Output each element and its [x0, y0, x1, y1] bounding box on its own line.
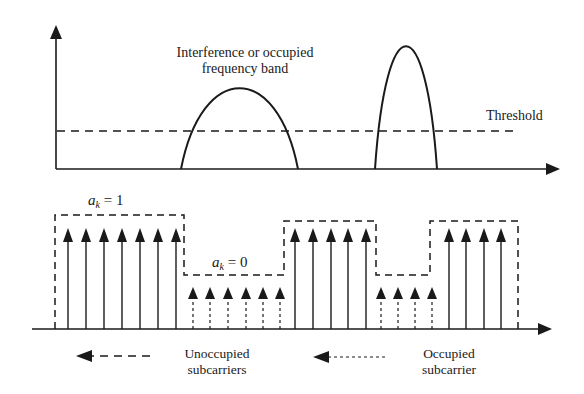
arrow-head-icon [427, 287, 437, 299]
spectrum-sensing-diagram: Interference or occupied frequency band … [0, 0, 584, 394]
arrow-head-icon [479, 228, 489, 242]
unoccupied-subcarrier-arrow [326, 228, 336, 329]
legend-unoccupied-line1: Unoccupied [172, 346, 262, 362]
arrow-head-icon [343, 228, 353, 242]
occupied-subcarrier-arrow [258, 287, 268, 329]
subcarrier-panel [32, 215, 552, 335]
occupied-subcarrier-arrow [205, 287, 215, 329]
arrow-head-icon [444, 228, 454, 242]
unoccupied-subcarrier-arrow [308, 228, 318, 329]
unoccupied-subcarrier-arrow [153, 228, 163, 329]
ak-equals-1-label: ak = 1 [88, 192, 123, 211]
occupied-subcarrier-arrow [376, 287, 386, 329]
occupied-subcarrier-arrow [223, 287, 233, 329]
subcarrier-axis-arrow-icon [538, 323, 552, 335]
arrow-head-icon [258, 287, 268, 299]
unoccupied-subcarrier-arrow [361, 228, 371, 329]
arrow-head-icon [188, 287, 198, 299]
arrow-head-icon [275, 287, 285, 299]
legend-occupied-line2: subcarrier [406, 362, 492, 378]
legend-occupied-arrow-icon [313, 351, 329, 363]
arrow-head-icon [117, 228, 127, 242]
arrow-head-icon [461, 228, 471, 242]
unoccupied-subcarrier-arrow [117, 228, 127, 329]
arrow-head-icon [326, 228, 336, 242]
unoccupied-subcarrier-arrow [444, 228, 454, 329]
interference-annotation: Interference or occupied frequency band [150, 45, 340, 77]
arrow-head-icon [308, 228, 318, 242]
arrow-head-icon [81, 228, 91, 242]
arrow-head-icon [376, 287, 386, 299]
y-axis-arrow-icon [50, 25, 62, 39]
ak-eq: = 1 [100, 192, 123, 208]
unoccupied-subcarrier-arrow [63, 228, 73, 329]
arrow-head-icon [393, 287, 403, 299]
arrow-head-icon [205, 287, 215, 299]
arrow-head-icon [361, 228, 371, 242]
unoccupied-subcarrier-arrow [290, 228, 300, 329]
unoccupied-subcarrier-arrow [171, 228, 181, 329]
legend-unoccupied-arrow-icon [76, 350, 92, 362]
occupied-subcarrier-arrow [188, 287, 198, 329]
unoccupied-subcarrier-arrow [81, 228, 91, 329]
occupied-subcarrier-arrow [393, 287, 403, 329]
legend-unoccupied-line2: subcarriers [172, 362, 262, 378]
ak-eq: = 0 [224, 254, 247, 270]
ak-var: a [212, 254, 220, 270]
unoccupied-subcarrier-arrow [496, 228, 506, 329]
legend-occupied-label: Occupied subcarrier [406, 346, 492, 377]
occupied-subcarrier-arrow [410, 287, 420, 329]
unoccupied-subcarrier-arrow [343, 228, 353, 329]
arrow-head-icon [410, 287, 420, 299]
threshold-label: Threshold [486, 108, 543, 124]
arrow-head-icon [496, 228, 506, 242]
arrow-head-icon [241, 287, 251, 299]
arrow-head-icon [223, 287, 233, 299]
unoccupied-subcarrier-arrow [99, 228, 109, 329]
interference-band-2 [375, 46, 437, 169]
interference-annotation-line1: Interference or occupied [150, 45, 340, 61]
interference-annotation-line2: frequency band [150, 61, 340, 77]
unoccupied-subcarrier-arrow [479, 228, 489, 329]
unoccupied-subcarrier-arrow [461, 228, 471, 329]
legend-unoccupied-label: Unoccupied subcarriers [172, 346, 262, 377]
occupied-subcarrier-arrow [427, 287, 437, 329]
arrow-head-icon [171, 228, 181, 242]
arrow-head-icon [99, 228, 109, 242]
unoccupied-subcarrier-arrow [135, 228, 145, 329]
legend-occupied-line1: Occupied [406, 346, 492, 362]
occupied-subcarrier-arrow [241, 287, 251, 329]
frequency-axis-arrow-icon [546, 163, 560, 175]
arrow-head-icon [290, 228, 300, 242]
ak-equals-0-label: ak = 0 [212, 254, 247, 273]
arrow-head-icon [63, 228, 73, 242]
arrow-head-icon [135, 228, 145, 242]
occupied-subcarrier-arrow [275, 287, 285, 329]
interference-band-1 [181, 88, 298, 169]
ak-var: a [88, 192, 96, 208]
arrow-head-icon [153, 228, 163, 242]
